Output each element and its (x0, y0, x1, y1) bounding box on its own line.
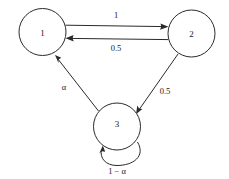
edge-label-2-to-1: 0.5 (111, 43, 122, 53)
node-2[interactable]: 2 (168, 10, 215, 57)
edge-label-1-to-2: 1 (114, 10, 118, 20)
state-transition-diagram: 1 2 3 1 0.5 0.5 α 1 − α (0, 0, 229, 179)
edge-1-to-2 (66, 23, 169, 29)
edge-label-3-to-1: α (62, 82, 67, 92)
node-1-label: 1 (40, 28, 45, 38)
edge-2-to-1 (66, 35, 169, 42)
edge-2-to-3-line (139, 54, 179, 111)
diagram-canvas: 1 2 3 1 0.5 0.5 α 1 − α (0, 0, 229, 179)
edge-2-to-3 (136, 54, 178, 114)
node-3[interactable]: 3 (94, 103, 141, 150)
edge-label-2-to-3: 0.5 (160, 86, 171, 96)
node-1[interactable]: 1 (19, 9, 66, 56)
edge-1-to-2-line (66, 25, 165, 26)
edge-label-3-self-loop: 1 − α (108, 166, 126, 176)
node-2-label: 2 (189, 29, 194, 39)
edge-2-to-1-arrowhead-icon (66, 35, 74, 42)
edge-2-to-1-line (70, 38, 169, 39)
node-3-label: 3 (115, 119, 120, 129)
